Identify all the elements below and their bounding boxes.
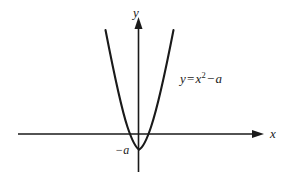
x-axis-arrowhead <box>252 130 264 138</box>
vertex-value-label: −a <box>115 144 130 156</box>
figure-canvas <box>0 0 291 178</box>
parabola-figure: y x −a y=x2−a <box>0 0 291 178</box>
equation-equals: = <box>186 71 196 86</box>
x-axis-label: x <box>270 127 276 140</box>
y-axis-label: y <box>133 6 139 19</box>
parabola-curve <box>106 30 174 150</box>
equation-minus: − <box>206 71 216 86</box>
curve-equation-label: y=x2−a <box>180 72 222 85</box>
equation-constant: a <box>216 71 223 86</box>
